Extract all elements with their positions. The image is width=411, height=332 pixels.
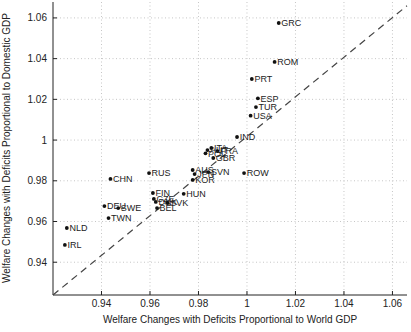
data-point-nld [65, 226, 69, 230]
data-point-twn [107, 216, 111, 220]
y-tick-label: 0.98 [28, 175, 48, 186]
data-point-swe [116, 206, 120, 210]
data-point-chn [109, 177, 113, 181]
y-tick-label: 1 [41, 135, 47, 146]
x-tick-label: 0.94 [92, 298, 112, 309]
data-point-bel [155, 206, 159, 210]
welfare-scatter-figure: 0.940.960.9811.021.041.060.940.960.9811.… [0, 0, 411, 332]
y-tick-label: 0.94 [28, 257, 48, 268]
data-point-hun [182, 192, 186, 196]
data-point-deu [103, 204, 107, 208]
data-point-fin [151, 191, 155, 195]
data-point-label-chn: CHN [113, 174, 133, 184]
y-tick-label: 1.04 [28, 53, 48, 64]
y-tick-label: 0.96 [28, 216, 48, 227]
y-axis-title: Welfare Changes with Deficits Proportion… [0, 0, 14, 314]
data-point-gbr [211, 156, 215, 160]
data-point-prt [250, 77, 254, 81]
data-point-irl [63, 243, 67, 247]
x-tick-label: 0.98 [189, 298, 209, 309]
data-point-label-hun: HUN [186, 189, 206, 199]
data-point-label-kor: KOR [195, 175, 215, 185]
data-point-label-irl: IRL [67, 240, 81, 250]
data-point-label-usa: USA [253, 111, 272, 121]
data-point-label-prt: PRT [254, 74, 272, 84]
data-point-pol [204, 151, 208, 155]
x-tick-label: 1.02 [286, 298, 306, 309]
data-point-label-rom: ROM [277, 57, 298, 67]
data-point-label-swe: SWE [121, 203, 142, 213]
data-point-label-ind: IND [240, 132, 256, 142]
data-point-label-rus: RUS [152, 168, 171, 178]
y-tick-label: 1.06 [28, 12, 48, 23]
data-point-grc [277, 21, 281, 25]
data-point-label-row: ROW [247, 168, 270, 178]
scatter-plot-canvas: 0.940.960.9811.021.041.060.940.960.9811.… [0, 0, 411, 332]
data-point-kor [191, 178, 195, 182]
data-point-label-gbr: GBR [216, 153, 236, 163]
data-point-rus [147, 171, 151, 175]
data-point-label-grc: GRC [281, 18, 302, 28]
data-point-rom [273, 60, 277, 64]
data-point-label-bel: BEL [160, 203, 177, 213]
data-point-esp [256, 96, 260, 100]
x-tick-label: 1.06 [383, 298, 403, 309]
x-tick-label: 0.96 [140, 298, 160, 309]
data-point-label-nld: NLD [69, 223, 88, 233]
data-point-aus [191, 168, 195, 172]
data-point-label-twn: TWN [111, 213, 132, 223]
x-tick-label: 1 [244, 298, 250, 309]
y-tick-label: 1.02 [28, 94, 48, 105]
data-point-dnk [154, 200, 158, 204]
x-tick-label: 1.04 [334, 298, 354, 309]
data-point-tur [254, 105, 258, 109]
x-axis-title: Welfare Changes with Deficits Proportion… [53, 313, 407, 326]
data-point-usa [249, 114, 253, 118]
data-point-row [242, 171, 246, 175]
data-point-ind [235, 135, 239, 139]
